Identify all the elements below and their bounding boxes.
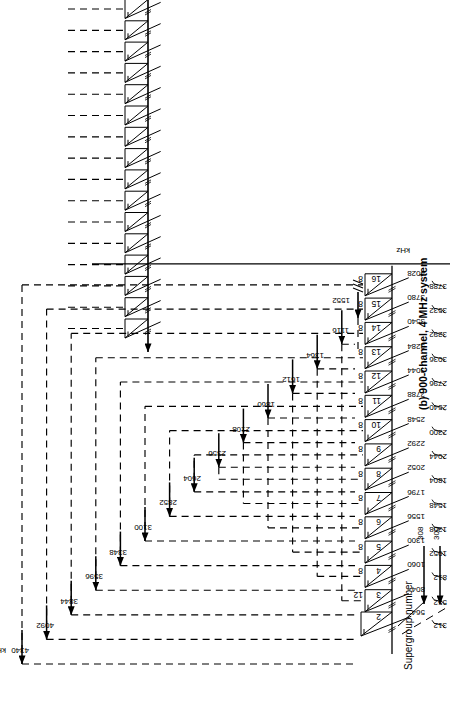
group-count-11: 8 xyxy=(358,396,363,405)
supergroup-number-7: 7 xyxy=(376,494,381,503)
freq-high-4: 1060 xyxy=(407,561,425,569)
freq-high-9: 2292 xyxy=(407,439,425,447)
carrier-2356: 2356 xyxy=(208,449,226,457)
freq-low-5: 1052 xyxy=(429,549,447,557)
freq-high-6: 1556 xyxy=(407,512,425,520)
carrier-1612: 1612 xyxy=(282,375,300,383)
supergroup-number-2: 2 xyxy=(376,613,381,622)
carrier-2108: 2108 xyxy=(233,425,251,433)
freq-low-10: 2300 xyxy=(429,428,447,436)
supergroup-number-9: 9 xyxy=(376,445,381,454)
freq-low-14: 3292 xyxy=(429,331,447,339)
supergroup-number-12: 12 xyxy=(372,372,381,381)
carrier-1116: 1116 xyxy=(332,326,349,334)
group-count-4: 8 xyxy=(358,566,363,575)
figure-caption: (b) 900-channel, 4 MHz system xyxy=(418,258,429,410)
group-count-3: 12 xyxy=(353,591,362,600)
group-count-14: 8 xyxy=(358,323,363,332)
carrier-1552: 1552 xyxy=(332,296,350,304)
freq-low-7: 1548 xyxy=(429,501,447,509)
supergroup-number-13: 13 xyxy=(372,348,381,357)
group-count-8: 8 xyxy=(358,469,363,478)
group-count-16: 8 xyxy=(358,275,363,284)
carrier-1860: 1860 xyxy=(257,400,275,408)
unit-khz-left: kHz xyxy=(0,646,6,654)
freq-low-3: 552 xyxy=(434,598,447,606)
carrier-3844: 3844 xyxy=(60,597,78,605)
freq-high-10: 2548 xyxy=(407,415,425,423)
freq-low-13: 3036 xyxy=(429,355,447,363)
freq-low-9: 2044 xyxy=(429,452,447,460)
supergroup-number-15: 15 xyxy=(372,299,381,308)
group-count-5: 8 xyxy=(358,542,363,551)
supergroup-number-6: 6 xyxy=(376,518,381,527)
carrier-2852: 2852 xyxy=(159,498,177,506)
carrier-3596: 3596 xyxy=(85,572,103,580)
supergroup-number-4: 4 xyxy=(376,566,381,575)
figure-canvas: 2564312312804552481060812581300105268155… xyxy=(0,0,450,710)
carrier-2604: 2604 xyxy=(183,474,201,482)
freq-low-12: 2796 xyxy=(429,379,447,387)
carrier-4092: 4092 xyxy=(36,621,54,629)
supergroup-number-3: 3 xyxy=(376,591,381,600)
freq-low-2: 312 xyxy=(434,621,447,629)
freq-low-4: 812 xyxy=(434,574,447,582)
group-count-9: 8 xyxy=(358,445,363,454)
group-count-7: 8 xyxy=(358,494,363,503)
freq-high-7: 1796 xyxy=(407,488,425,496)
group-count-10: 8 xyxy=(358,421,363,430)
group-count-15: 8 xyxy=(358,299,363,308)
freq-low-11: 2540 xyxy=(429,403,447,411)
supergroup-number-16: 16 xyxy=(372,275,381,284)
supergroup-number-10: 10 xyxy=(372,421,381,430)
freq-high-8: 2052 xyxy=(407,463,425,471)
freq-low-16: 3788 xyxy=(429,282,447,290)
supergroup-number-14: 14 xyxy=(372,323,381,332)
carrier-308: 308 xyxy=(417,527,425,540)
diagram-labels: 2564312312804552481060812581300105268155… xyxy=(0,0,450,710)
carrier-3100: 3100 xyxy=(134,523,152,531)
group-count-12: 8 xyxy=(358,372,363,381)
supergroup-number-8: 8 xyxy=(376,469,381,478)
supergroup-number-11: 11 xyxy=(372,396,381,405)
axis-label-supergroup-number: Supergroup number xyxy=(404,581,414,670)
rotated-diagram: 2564312312804552481060812581300105268155… xyxy=(0,0,450,710)
carrier-3348: 3348 xyxy=(110,548,128,556)
group-count-13: 8 xyxy=(358,348,363,357)
unit-khz-right: kHz xyxy=(396,246,410,254)
supergroup-number-5: 5 xyxy=(376,542,381,551)
carrier-4340: 4340 xyxy=(11,646,29,654)
freq-low-8: 1804 xyxy=(429,476,447,484)
carrier-1364: 1364 xyxy=(306,351,324,359)
carrier-300: 300 xyxy=(433,527,441,540)
group-count-6: 8 xyxy=(358,518,363,527)
freq-low-15: 3532 xyxy=(429,306,447,314)
